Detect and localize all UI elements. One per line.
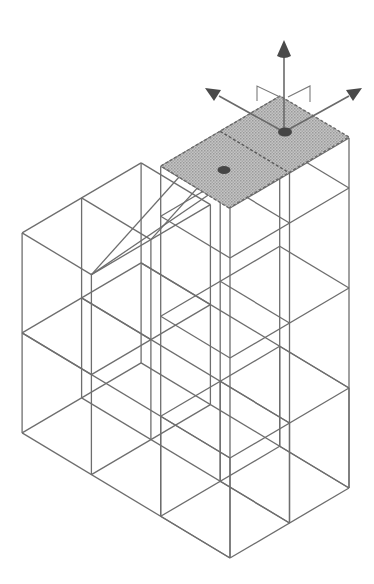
center-handle[interactable] [278,128,292,137]
left-arrow-icon[interactable] [205,88,221,101]
face-handle[interactable] [218,166,231,174]
up-arrow-icon[interactable] [277,40,291,58]
wireframe-svg [0,0,374,584]
edge [161,516,230,558]
right-arrow-icon[interactable] [346,88,362,101]
diagram-canvas [0,0,374,584]
